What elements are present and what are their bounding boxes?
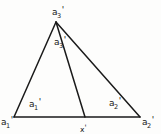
left-vertex-label: a1' [1,112,13,128]
right-angle-label-subscript: 2 [114,103,118,111]
apex-angle-label: a3' [54,32,66,48]
triangle-diagram: a3' a3' a1' a1' a2' a2' x' [0,0,161,134]
left-angle-label-prime: ' [39,97,41,107]
left-angle-label-subscript: 1 [34,104,38,112]
diagram-canvas [0,0,161,134]
left-vertex-label-subscript: 1 [6,122,10,130]
apex-angle-label-subscript: 3 [59,42,63,50]
right-vertex-label-subscript: 2 [147,122,151,130]
right-angle-label: a2' [109,93,121,109]
apex-vertex-label: a3' [52,2,64,18]
right-vertex-label-prime: ' [152,115,154,125]
apex-vertex-label-subscript: 3 [57,12,61,20]
base-point-label: x' [80,119,87,134]
left-angle-label: a1' [29,94,41,110]
right-angle-label-prime: ' [119,96,121,106]
base-point-label-prime: ' [84,123,86,132]
left-vertex-label-prime: ' [11,115,13,125]
triangle-right-side [56,22,140,117]
right-vertex-label: a2' [142,112,154,128]
apex-vertex-label-prime: ' [62,5,64,15]
apex-angle-label-prime: ' [64,35,66,45]
